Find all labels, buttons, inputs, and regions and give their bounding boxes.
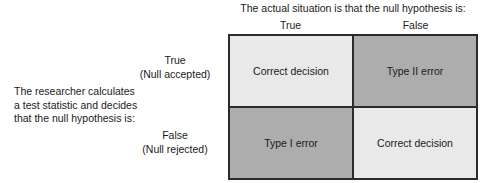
column-header-true: True	[228, 19, 353, 32]
cell-false-false: Correct decision	[354, 108, 476, 178]
row-header-false-sublabel: (Null rejected)	[130, 143, 220, 157]
decision-matrix: Correct decision Type II error Type I er…	[228, 34, 478, 180]
cell-true-false: Type II error	[354, 36, 476, 106]
row-group-caption-line-3: that the null hypothesis is:	[14, 112, 144, 126]
column-header-false: False	[353, 19, 478, 32]
row-header-false: False (Null rejected)	[130, 129, 220, 156]
hypothesis-decision-matrix-figure: The actual situation is that the null hy…	[0, 0, 484, 183]
row-group-caption-line-2: a test statistic and decides	[14, 99, 144, 113]
row-header-true: True (Null accepted)	[130, 54, 220, 81]
row-group-caption-line-1: The researcher calculates	[14, 85, 144, 99]
cell-true-true: Correct decision	[230, 36, 352, 106]
column-group-title: The actual situation is that the null hy…	[228, 2, 478, 15]
row-group-caption: The researcher calculates a test statist…	[14, 85, 144, 126]
cell-false-true: Type I error	[230, 108, 352, 178]
row-header-true-label: True	[130, 54, 220, 68]
row-header-false-label: False	[130, 129, 220, 143]
row-header-true-sublabel: (Null accepted)	[130, 68, 220, 82]
